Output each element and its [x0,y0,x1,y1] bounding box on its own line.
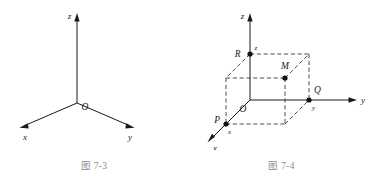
point-P-marker [223,121,228,126]
point-P: P x [213,115,232,136]
point-Q-coord-label: y [311,104,316,112]
box-edge-bottom-right [285,100,309,124]
x-axis-line [26,103,77,125]
point-Q-label: Q [314,85,321,95]
x-axis-arrowhead-icon [20,123,29,128]
x-axis-arrowhead-icon [208,134,216,143]
figure-pair-page: z x y O 图 7-3 [0,0,375,182]
x-axis-label: x [22,132,27,142]
axis-segments-solid [250,54,309,100]
point-M-label: M [280,61,290,71]
z-axis-group: z [240,11,253,54]
point-M-marker [282,75,287,80]
point-Q-marker [306,97,311,102]
point-R-label: R [234,49,241,59]
figure-7-3-diagram: z x y O [0,0,188,150]
x-axis-group: x [20,103,78,142]
z-axis-arrowhead-icon [74,13,79,22]
origin-label: O [82,102,89,112]
y-axis-arrowhead-icon [125,123,134,128]
point-P-label: P [213,115,220,125]
z-axis-label: z [240,11,245,21]
z-axis-arrowhead-icon [247,13,252,22]
figure-7-4-diagram: z y x R z M [188,0,375,150]
point-R: R z [234,44,258,59]
point-P-coord-label: x [227,128,232,136]
y-axis-group: y [309,95,365,105]
origin-label: O [240,104,247,114]
figure-7-4-caption: 图 7-4 [188,158,375,172]
y-axis-label: y [127,132,132,142]
z-axis-group: z [67,11,80,103]
projection-box [226,54,309,124]
z-axis-label: z [67,11,72,21]
point-R-marker [247,51,252,56]
point-R-coord-label: z [254,44,258,52]
x-axis-label: x [212,143,217,150]
y-axis-arrowhead-icon [349,97,358,102]
figure-7-4: z y x R z M [188,0,375,182]
figure-7-3-caption: 图 7-3 [0,158,188,172]
y-axis-label: y [360,95,365,105]
figure-7-3: z x y O 图 7-3 [0,0,188,182]
